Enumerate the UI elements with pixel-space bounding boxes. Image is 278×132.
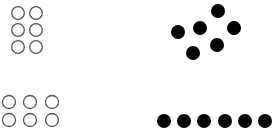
group-top-left	[12, 7, 43, 54]
filled-dot	[211, 4, 225, 18]
open-circle	[24, 114, 37, 127]
open-circle	[3, 96, 16, 109]
open-circle	[46, 114, 59, 127]
filled-dot	[197, 114, 211, 128]
open-circle	[12, 7, 25, 20]
filled-dot	[193, 21, 207, 35]
filled-dot	[186, 46, 200, 60]
filled-dot	[171, 25, 185, 39]
filled-dot	[177, 114, 191, 128]
filled-dot	[218, 114, 232, 128]
open-circle	[30, 41, 43, 54]
open-circle	[46, 96, 59, 109]
open-circle	[30, 7, 43, 20]
filled-dot	[258, 114, 272, 128]
filled-dot	[238, 114, 252, 128]
filled-dot	[210, 38, 224, 52]
dot-groups-diagram	[0, 0, 278, 132]
group-bottom-left	[3, 96, 59, 127]
filled-dot	[227, 21, 241, 35]
group-top-right	[171, 4, 241, 60]
open-circle	[3, 114, 16, 127]
filled-dot	[157, 114, 171, 128]
open-circle	[12, 24, 25, 37]
group-bottom-right	[157, 114, 272, 128]
open-circle	[30, 24, 43, 37]
open-circle	[12, 41, 25, 54]
open-circle	[24, 96, 37, 109]
